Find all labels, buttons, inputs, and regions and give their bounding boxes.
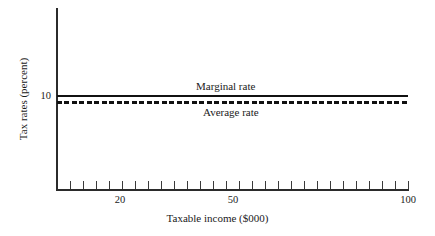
y-axis-line	[56, 8, 58, 191]
x-axis-tick	[304, 181, 305, 189]
x-axis-tick	[109, 181, 110, 189]
average-rate-line	[57, 101, 408, 104]
x-axis-tick	[96, 181, 97, 189]
marginal-rate-line	[57, 95, 408, 97]
marginal-rate-annotation: Marginal rate	[196, 80, 255, 92]
x-axis-tick-label: 100	[388, 194, 428, 205]
x-axis-tick	[330, 181, 331, 189]
x-axis-line	[56, 189, 409, 191]
x-axis-tick	[343, 181, 344, 189]
x-axis-tick	[213, 181, 214, 189]
x-axis-tick	[122, 181, 123, 189]
x-axis-tick	[356, 181, 357, 189]
x-axis-tick	[408, 181, 409, 189]
x-axis-tick	[200, 181, 201, 189]
x-axis-tick	[278, 181, 279, 189]
x-axis-tick	[369, 181, 370, 189]
y-tick-label-10: 10	[33, 90, 51, 101]
x-axis-tick	[70, 181, 71, 189]
x-axis-tick	[239, 181, 240, 189]
tax-rate-chart: 10 2050100 Marginal rate Average rate Ta…	[0, 0, 435, 236]
y-axis-title: Tax rates (percent)	[17, 34, 29, 164]
x-axis-tick	[226, 181, 227, 189]
x-axis-tick	[135, 181, 136, 189]
x-axis-tick	[382, 181, 383, 189]
x-axis-tick	[187, 181, 188, 189]
x-axis-tick	[265, 181, 266, 189]
x-axis-title: Taxable income ($000)	[0, 212, 435, 224]
x-axis-tick	[252, 181, 253, 189]
x-axis-tick	[174, 181, 175, 189]
x-axis-tick	[83, 181, 84, 189]
x-axis-tick	[317, 181, 318, 189]
x-axis-tick	[291, 181, 292, 189]
x-axis-tick	[148, 181, 149, 189]
x-axis-tick-label: 20	[100, 194, 140, 205]
x-axis-tick	[395, 181, 396, 189]
x-axis-tick-label: 50	[213, 194, 253, 205]
x-axis-tick	[161, 181, 162, 189]
average-rate-annotation: Average rate	[203, 106, 259, 118]
